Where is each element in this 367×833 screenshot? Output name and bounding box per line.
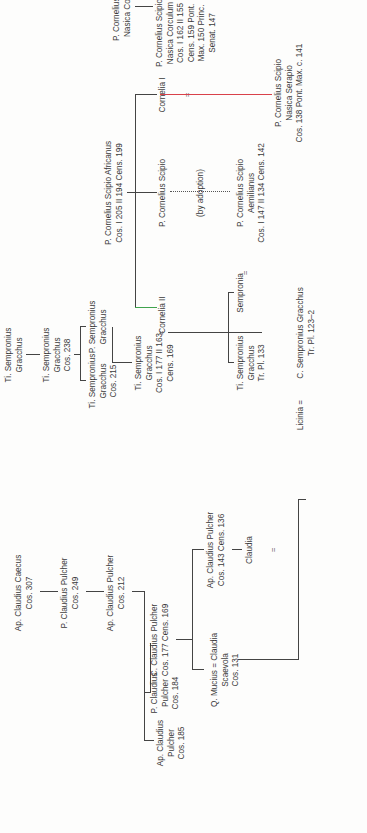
cognomen-line: Gracchus	[145, 333, 156, 393]
descent-line	[298, 499, 306, 500]
descent-line	[298, 500, 299, 660]
descent-line	[238, 659, 298, 660]
office-line: Cos. 131	[231, 633, 242, 707]
office-line: Cos. I 162 II 155	[176, 0, 187, 67]
node-ap-claudius-pulcher-143: Ap. Claudius Pulcher Cos. 143 Cens. 136	[206, 512, 227, 588]
office-line: Nasica Cos. 191	[123, 0, 134, 41]
node-sempronia: Sempronia	[236, 273, 247, 313]
marriage-sign: =	[270, 548, 278, 553]
office-line: Cos. 143 Cens. 136	[217, 512, 228, 588]
node-ti-sempronius-gracchus-238: Ti. Sempronius Gracchus Cos. 238	[42, 328, 74, 383]
office-line: Cos. 212	[117, 555, 128, 631]
sibling-tick	[144, 740, 154, 741]
office-line: Tr. Pl. 123–2	[307, 287, 318, 378]
office-line: Cos. I 177 II 163	[155, 333, 166, 393]
node-ap-claudius-pulcher-185: Ap. Claudius Pulcher Cos. 185	[156, 720, 188, 766]
office-line: Cos. 307	[25, 555, 36, 631]
name-line: P. Claudius	[150, 673, 161, 714]
name-line: Ti. Sempronius	[134, 333, 145, 393]
name-line: C. Sempronius Gracchus	[296, 287, 307, 378]
name-line: P. Cornelius Scipio	[155, 0, 166, 67]
name-line: Ti. Sempronius	[4, 328, 15, 383]
node-q-mucius-claudia: Q. Mucius = Claudia Scaevola Cos. 131	[210, 633, 242, 707]
sibling-tick	[228, 362, 234, 363]
marriage-line-text: Q. Mucius = Claudia	[210, 633, 221, 707]
node-cornelia-ii: Cornelia II	[158, 296, 169, 333]
name-line: P. Claudius Pulcher	[60, 558, 71, 629]
node-p-sempronius-gracchus: P. Sempronius Gracchus	[88, 301, 109, 354]
node-p-claudius-pulcher-184: P. Claudius Pulcher Cos. 184	[150, 673, 182, 714]
node-p-cornelius-scipio-nasica-corculum: P. Cornelius Scipio Nasica Corculum Cos.…	[155, 0, 218, 67]
sibling-bracket	[192, 550, 193, 670]
name-line: Ap. Claudius Caecus	[14, 555, 25, 631]
descent-line	[112, 362, 132, 363]
name-line: Ti. Sempronius	[236, 336, 247, 391]
sibling-tick	[192, 669, 204, 670]
node-licinia: Licinia =	[296, 400, 307, 430]
cognomen-line: Scaevola	[221, 633, 232, 707]
office-line: Tr. Pl. 133	[257, 336, 268, 391]
cognomen-line: Nasica Corculum	[166, 0, 177, 67]
cognomen-line: Gracchus	[99, 354, 110, 409]
name-line: P. Cornelius Scipio Africanus	[104, 141, 115, 245]
cognomen-line: Pulcher	[167, 720, 178, 766]
node-ti-sempronius-gracchus-133: Ti. Sempronius Gracchus Tr. Pl. 133	[236, 336, 268, 391]
name-line: P. Sempronius	[88, 301, 99, 354]
cognomen-line: Gracchus	[15, 328, 26, 383]
name-line: Ti. Sempronius	[42, 328, 53, 383]
sibling-bracket	[80, 327, 81, 381]
node-p-claudius-pulcher-249: P. Claudius Pulcher Cos. 249	[60, 558, 81, 629]
node-ti-sempronius-gracchus-gen1: Ti. Sempronius Gracchus	[4, 328, 25, 383]
name-line: Sempronia	[236, 273, 247, 313]
censor-line: Cens. 169	[166, 333, 177, 393]
descent-line	[132, 591, 144, 592]
descent-line	[135, 6, 153, 7]
node-p-cornelius-scipio-aemilianus: P. Cornelius Scipio Aemilianus Cos. I 14…	[236, 143, 268, 243]
office-line: Cos. 238	[63, 328, 74, 383]
node-ti-sempronius-gracchus-177: Ti. Sempronius Gracchus Cos. I 177 II 16…	[134, 333, 176, 393]
office-line: Cens. 159 Pont.	[187, 0, 198, 67]
node-p-cornelius-scipio-nasica-serapio: P. Cornelius Scipio Nasica Serapio Cos. …	[274, 44, 306, 143]
node-claudia: Claudia	[245, 536, 256, 564]
cognomen-line: Aemilianus	[247, 143, 258, 243]
marriage-descent-line	[160, 94, 272, 95]
sibling-tick	[135, 94, 157, 95]
descent-line	[232, 549, 242, 550]
office-line: Cos. 138 Pont. Max. c. 141	[295, 44, 306, 143]
sibling-tick	[80, 326, 86, 327]
name-line: P. Cornelius Scipio	[158, 159, 169, 227]
name-line: P. Cornelius Scipio	[112, 0, 123, 41]
sibling-tick-cornelia-ii	[135, 307, 157, 308]
node-c-claudius-pulcher-177: C. Claudius Pulcher Cos. 177 Cens. 169	[150, 604, 171, 676]
descent-line	[127, 192, 135, 193]
cognomen-line: Gracchus	[247, 336, 258, 391]
office-line: Senat. 147	[208, 0, 219, 67]
node-p-cornelius-scipio-africanus: P. Cornelius Scipio Africanus Cos. I 205…	[104, 141, 125, 245]
sibling-bracket	[135, 95, 136, 308]
office-line: Max. 150 Princ.	[197, 0, 208, 67]
name-line: C. Claudius Pulcher	[150, 604, 161, 676]
family-tree-page: Ap. Claudius Caecus Cos. 307 P. Claudius…	[0, 0, 367, 833]
node-ap-claudius-pulcher-212: Ap. Claudius Pulcher Cos. 212	[106, 555, 127, 631]
adoption-note: (by adoption)	[196, 169, 205, 217]
sibling-tick	[228, 292, 234, 293]
name-line: Cornelia I	[158, 77, 169, 112]
descent-line	[176, 639, 192, 640]
cognomen-line: Gracchus	[99, 301, 110, 354]
name-line: Ap. Claudius	[156, 720, 167, 766]
family-tree-canvas: Ap. Claudius Caecus Cos. 307 P. Claudius…	[0, 0, 367, 833]
node-ap-claudius-caecus: Ap. Claudius Caecus Cos. 307	[14, 555, 35, 631]
descent-line	[112, 327, 113, 363]
sibling-tick	[135, 192, 157, 193]
office-line: Cos. 185	[177, 720, 188, 766]
name-line: Ti. Sempronius	[88, 354, 99, 409]
office-line: Cos. I 147 II 134 Cens. 142	[257, 143, 268, 243]
office-line: Cos. I 205 II 194 Cens. 199	[115, 141, 126, 245]
cognomen-line: Nasica Serapio	[285, 44, 296, 143]
node-c-sempronius-gracchus: C. Sempronius Gracchus Tr. Pl. 123–2	[296, 287, 317, 378]
node-p-cornelius-scipio-nasica: P. Cornelius Scipio Nasica Cos. 191	[112, 0, 133, 41]
sibling-tick	[80, 380, 86, 381]
name-line: Claudia	[245, 536, 256, 564]
office-line: Cos. 177 Cens. 169	[161, 604, 172, 676]
sibling-tick	[192, 549, 204, 550]
